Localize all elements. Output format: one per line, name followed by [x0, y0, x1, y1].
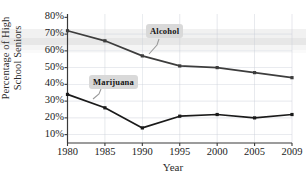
data-point-marijuana: [290, 113, 293, 116]
annotation-leader-marijuana: [93, 89, 101, 99]
data-point-marijuana: [141, 126, 144, 129]
data-point-marijuana: [178, 115, 181, 118]
data-point-marijuana: [66, 93, 69, 96]
line-chart: Percentage of High School Seniors 80%70%…: [0, 0, 306, 184]
data-point-alcohol: [290, 76, 293, 79]
data-point-alcohol: [178, 64, 181, 67]
x-axis-title-text: Year: [123, 161, 183, 173]
data-point-alcohol: [216, 66, 219, 69]
data-point-marijuana: [103, 106, 106, 109]
x-axis-tick-label: 1990: [122, 146, 162, 157]
x-axis-tick-labels: 1980198519901995200020052009: [0, 146, 306, 162]
data-point-alcohol: [141, 54, 144, 57]
data-point-alcohol: [66, 29, 69, 32]
data-point-alcohol: [253, 71, 256, 74]
annotation-alcohol: Alcohol: [146, 24, 183, 38]
annotation-leader-alcohol: [149, 39, 159, 54]
data-point-marijuana: [253, 116, 256, 119]
x-axis-tick-label: 1985: [85, 146, 125, 157]
x-axis-tick-label: 2009: [272, 146, 306, 157]
x-axis-tick-label: 1980: [48, 146, 88, 157]
x-axis-tick-label: 1995: [160, 146, 200, 157]
data-point-marijuana: [216, 113, 219, 116]
x-axis-tick-label: 2005: [235, 146, 275, 157]
data-point-alcohol: [103, 39, 106, 42]
x-axis-title: Year: [0, 161, 306, 173]
x-axis-tick-label: 2000: [197, 146, 237, 157]
annotation-marijuana: Marijuana: [89, 75, 138, 89]
